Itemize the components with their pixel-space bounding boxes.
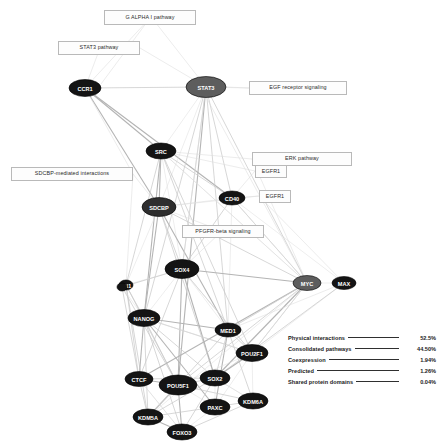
legend-label: Predicted xyxy=(288,368,314,374)
node-shape[interactable] xyxy=(200,399,230,415)
edge xyxy=(228,283,307,330)
gene-node-pou5f1[interactable]: POU5F1 xyxy=(159,375,197,395)
node-shape[interactable] xyxy=(133,409,163,425)
node-shape[interactable] xyxy=(293,276,321,291)
annotation-label: EGFR1 xyxy=(266,194,284,199)
gene-node-foxo3[interactable]: FOXO3 xyxy=(167,424,197,440)
annotation-label: G ALPHA I pathway xyxy=(125,15,174,20)
node-shape[interactable] xyxy=(146,143,176,159)
legend-line-swatch xyxy=(352,348,402,349)
node-shape[interactable] xyxy=(186,77,226,98)
annotation-label: STAT3 pathway xyxy=(80,45,119,50)
legend-percent: 52.5% xyxy=(402,335,436,341)
edge xyxy=(152,18,206,87)
edge xyxy=(85,88,133,174)
annotation-label: EGF receptor signaling xyxy=(269,85,326,90)
annotation-label: SDCBP-mediated interactions xyxy=(35,171,109,176)
annotation-label: PFGFR-beta signaling xyxy=(195,229,250,234)
legend-line-swatch xyxy=(353,381,402,382)
node-shape[interactable] xyxy=(200,370,230,386)
legend-line-swatch xyxy=(326,359,402,360)
edge xyxy=(148,283,307,417)
legend-label: Coexpression xyxy=(288,357,326,363)
gene-node-sdcbp[interactable]: SDCBP xyxy=(142,198,176,217)
annotation-stat3-pathway[interactable]: STAT3 pathway xyxy=(58,41,140,55)
node-shape[interactable] xyxy=(125,372,153,387)
node-shape[interactable] xyxy=(238,393,268,409)
gene-node-kdm6a[interactable]: KDM6A xyxy=(238,393,268,409)
annotation-egfr1-lower[interactable]: EGFR1 xyxy=(259,190,291,203)
network-legend: Physical interactions52.5%Consolidated p… xyxy=(288,332,436,387)
legend-label: Physical interactions xyxy=(288,335,345,341)
legend-percent: 0.04% xyxy=(402,379,436,385)
node-shape[interactable] xyxy=(69,80,101,97)
legend-line-swatch xyxy=(314,370,402,371)
edge xyxy=(139,318,144,379)
annotation-label: EGFR1 xyxy=(262,169,280,174)
gene-node-src[interactable]: SRC xyxy=(146,143,176,159)
node-shape[interactable] xyxy=(332,277,356,290)
gene-node-nanog[interactable]: NANOG xyxy=(128,310,160,327)
edge xyxy=(126,285,139,379)
edge xyxy=(122,287,139,379)
node-shape[interactable] xyxy=(219,191,245,205)
edge xyxy=(228,283,344,330)
node-shape[interactable] xyxy=(236,345,268,362)
annotation-egf-receptor-signaling[interactable]: EGF receptor signaling xyxy=(249,81,347,95)
annotation-galpha-i-pathway[interactable]: G ALPHA I pathway xyxy=(104,10,196,25)
gene-node-pou2f1[interactable]: POU2F1 xyxy=(236,345,268,362)
edge xyxy=(182,269,215,378)
gene-node-sp1[interactable] xyxy=(117,283,127,291)
legend-row: Physical interactions52.5% xyxy=(288,332,436,343)
gene-node-max[interactable]: MAX xyxy=(332,277,356,290)
gene-node-ccr1[interactable]: CCR1 xyxy=(69,80,101,97)
gene-node-stat3[interactable]: STAT3 xyxy=(186,77,226,98)
annotation-erk-pathway[interactable]: ERK pathway xyxy=(252,152,352,166)
annotation-sdcbp-mediated-interactions[interactable]: SDCBP-mediated interactions xyxy=(11,167,133,181)
legend-label: Consolidated pathways xyxy=(288,346,352,352)
node-shape[interactable] xyxy=(165,260,199,279)
legend-label: Shared protein domains xyxy=(288,379,353,385)
gene-node-sox4[interactable]: SOX4 xyxy=(165,260,199,279)
edge xyxy=(228,198,232,330)
edge xyxy=(144,151,161,318)
gene-node-ctcf[interactable]: CTCF xyxy=(125,372,153,387)
gene-node-med1[interactable]: MED1 xyxy=(215,323,241,337)
legend-row: Predicted1.26% xyxy=(288,365,436,376)
legend-row: Consolidated pathways44.50% xyxy=(288,343,436,354)
legend-row: Coexpression1.94% xyxy=(288,354,436,365)
annotation-label: ERK pathway xyxy=(285,156,319,161)
legend-percent: 44.50% xyxy=(402,346,436,352)
gene-node-cd40[interactable]: CD40 xyxy=(219,191,245,205)
gene-node-kdm5a[interactable]: KDM5A xyxy=(133,409,163,425)
legend-percent: 1.94% xyxy=(402,357,436,363)
node-shape[interactable] xyxy=(215,323,241,337)
node-shape[interactable] xyxy=(167,424,197,440)
edge xyxy=(85,88,161,151)
edge xyxy=(126,174,133,285)
legend-row: Shared protein domains0.04% xyxy=(288,376,436,387)
node-shape[interactable] xyxy=(159,375,197,395)
legend-percent: 1.26% xyxy=(402,368,436,374)
gene-network-view: CCR1STAT3SRCSDCBPCD40SOX4PN1NANOGMED1MYC… xyxy=(0,0,441,448)
legend-line-swatch xyxy=(345,337,402,338)
gene-node-myc[interactable]: MYC xyxy=(293,276,321,291)
node-shape[interactable] xyxy=(128,310,160,327)
edge xyxy=(182,269,252,353)
annotation-pdgfr-beta-signaling[interactable]: PFGFR-beta signaling xyxy=(182,225,264,238)
gene-node-pax6[interactable]: PAXC xyxy=(200,399,230,415)
gene-node-sox2[interactable]: SOX2 xyxy=(200,370,230,386)
node-shape[interactable] xyxy=(142,198,176,217)
annotation-egfr1-upper[interactable]: EGFR1 xyxy=(255,165,287,178)
node-shape[interactable] xyxy=(117,283,127,291)
